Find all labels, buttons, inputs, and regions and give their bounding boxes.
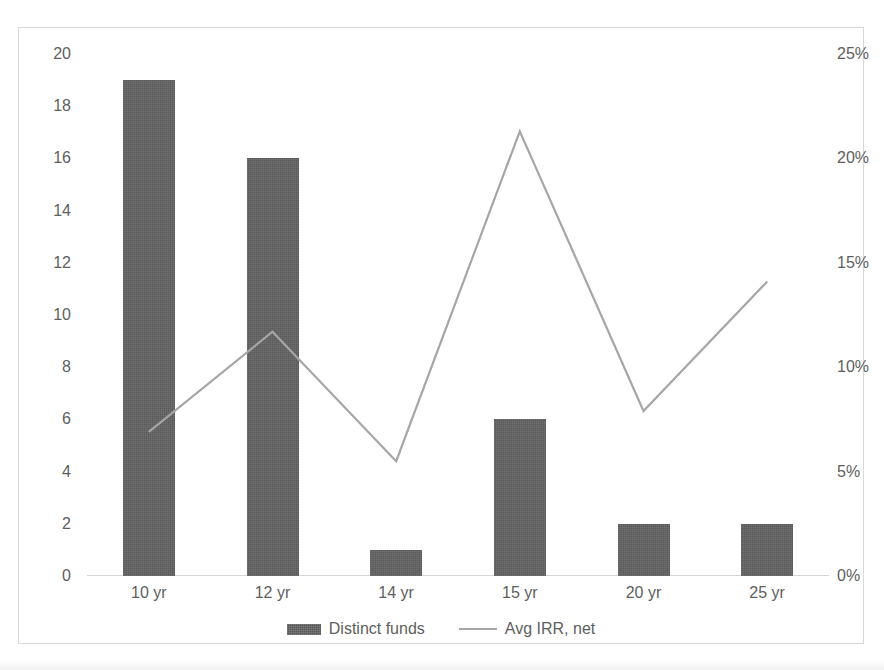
y-right-tick: 0% (837, 567, 860, 585)
y-right-tick: 25% (837, 45, 869, 63)
chart-legend: Distinct fundsAvg IRR, net (19, 620, 863, 638)
y-axis-right: 0%5%10%15%20%25% (831, 54, 884, 576)
scan-artifact (0, 660, 884, 670)
y-left-tick: 8 (62, 358, 71, 376)
x-axis-tick: 20 yr (626, 584, 662, 602)
y-left-tick: 4 (62, 463, 71, 481)
avg-irr-polyline (149, 131, 767, 461)
y-left-tick: 0 (62, 567, 71, 585)
chart-frame: 02468101214161820 0%5%10%15%20%25% 10 yr… (18, 27, 864, 644)
y-left-tick: 18 (53, 97, 71, 115)
y-left-tick: 10 (53, 306, 71, 324)
legend-item[interactable]: Avg IRR, net (459, 620, 595, 638)
x-axis-tick: 10 yr (131, 584, 167, 602)
x-axis-tick: 25 yr (749, 584, 785, 602)
y-left-tick: 20 (53, 45, 71, 63)
y-left-tick: 2 (62, 515, 71, 533)
plot-area (87, 54, 829, 576)
line-swatch-icon (459, 628, 497, 630)
y-left-tick: 14 (53, 202, 71, 220)
y-right-tick: 10% (837, 358, 869, 376)
y-left-tick: 6 (62, 410, 71, 428)
x-axis: 10 yr12 yr14 yr15 yr20 yr25 yr (87, 584, 829, 614)
x-axis-tick: 12 yr (255, 584, 291, 602)
legend-item[interactable]: Distinct funds (287, 620, 425, 638)
x-axis-tick: 14 yr (378, 584, 414, 602)
y-left-tick: 12 (53, 254, 71, 272)
y-right-tick: 5% (837, 463, 860, 481)
line-series-avg-irr-net (87, 54, 829, 576)
y-left-tick: 16 (53, 149, 71, 167)
bar-swatch-icon (287, 624, 321, 635)
legend-item-label: Distinct funds (329, 620, 425, 638)
legend-item-label: Avg IRR, net (505, 620, 595, 638)
y-right-tick: 20% (837, 149, 869, 167)
y-right-tick: 15% (837, 254, 869, 272)
y-axis-left: 02468101214161820 (19, 54, 81, 576)
x-axis-tick: 15 yr (502, 584, 538, 602)
